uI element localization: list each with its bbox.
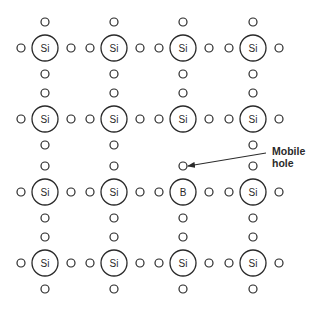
- silicon-atom: Si: [101, 35, 127, 61]
- valence-electron: [41, 285, 49, 293]
- valence-electron: [179, 233, 187, 241]
- arrow-icon: [188, 153, 266, 166]
- valence-electron: [41, 70, 49, 78]
- lattice-diagram: SiSiSiSiSiSiSiSiSiSiBSiSiSiSiSi Mobile h…: [0, 0, 314, 310]
- atom-symbol: Si: [110, 187, 119, 198]
- valence-electron: [179, 214, 187, 222]
- valence-electron: [86, 44, 94, 52]
- valence-electron: [67, 259, 75, 267]
- atom-symbol: Si: [41, 187, 50, 198]
- valence-electron: [249, 89, 257, 97]
- silicon-atom: Si: [101, 106, 127, 132]
- valence-electron: [155, 188, 163, 196]
- valence-electron: [136, 188, 144, 196]
- valence-electron: [179, 162, 187, 170]
- silicon-atom: Si: [240, 106, 266, 132]
- atom-symbol: B: [180, 187, 187, 198]
- silicon-atom: Si: [101, 250, 127, 276]
- valence-electron: [205, 115, 213, 123]
- valence-electron: [110, 18, 118, 26]
- valence-electron: [225, 44, 233, 52]
- valence-electron: [67, 188, 75, 196]
- valence-electron: [41, 162, 49, 170]
- valence-electron: [110, 162, 118, 170]
- valence-electron: [136, 44, 144, 52]
- silicon-atom: Si: [240, 179, 266, 205]
- silicon-atom: Si: [170, 35, 196, 61]
- valence-electron: [86, 188, 94, 196]
- valence-electron: [136, 115, 144, 123]
- mobile-hole-annotation: Mobile hole: [188, 145, 305, 169]
- valence-electron: [41, 141, 49, 149]
- atom-symbol: Si: [41, 43, 50, 54]
- atom-symbol: Si: [179, 258, 188, 269]
- valence-electron: [249, 233, 257, 241]
- atom-symbol: Si: [41, 258, 50, 269]
- atom-symbol: Si: [179, 114, 188, 125]
- valence-electron: [67, 115, 75, 123]
- silicon-atom: Si: [32, 106, 58, 132]
- valence-electron: [249, 18, 257, 26]
- boron-atom: B: [170, 179, 196, 205]
- valence-electron: [249, 141, 257, 149]
- atom-symbol: Si: [110, 114, 119, 125]
- silicon-atom: Si: [170, 106, 196, 132]
- valence-electron: [275, 44, 283, 52]
- valence-electron: [86, 115, 94, 123]
- valence-electron: [86, 259, 94, 267]
- silicon-atom: Si: [32, 179, 58, 205]
- atom-symbol: Si: [110, 43, 119, 54]
- valence-electron: [179, 18, 187, 26]
- valence-electron: [249, 214, 257, 222]
- valence-electron: [67, 44, 75, 52]
- atom-symbol: Si: [41, 114, 50, 125]
- valence-electron: [110, 233, 118, 241]
- valence-electron: [110, 141, 118, 149]
- valence-electron: [110, 89, 118, 97]
- valence-electron: [225, 259, 233, 267]
- valence-electron: [110, 285, 118, 293]
- valence-electron: [110, 214, 118, 222]
- valence-electron: [275, 188, 283, 196]
- valence-electron: [249, 162, 257, 170]
- atom-symbol: Si: [249, 187, 258, 198]
- valence-electron: [17, 115, 25, 123]
- silicon-atom: Si: [32, 35, 58, 61]
- valence-electron: [41, 214, 49, 222]
- valence-electron: [225, 188, 233, 196]
- valence-electron: [136, 259, 144, 267]
- valence-electron: [41, 18, 49, 26]
- silicon-atom: Si: [240, 250, 266, 276]
- valence-electron: [179, 89, 187, 97]
- atom-symbol: Si: [249, 114, 258, 125]
- valence-electron: [155, 44, 163, 52]
- valence-electron: [179, 70, 187, 78]
- valence-electron: [17, 188, 25, 196]
- valence-electron: [179, 285, 187, 293]
- valence-electron: [275, 259, 283, 267]
- annotation-label-line2: hole: [272, 157, 294, 169]
- valence-electron: [41, 89, 49, 97]
- valence-electron: [249, 70, 257, 78]
- electron-layer: [17, 18, 283, 293]
- atom-symbol: Si: [249, 258, 258, 269]
- valence-electron: [17, 44, 25, 52]
- atom-symbol: Si: [179, 43, 188, 54]
- silicon-atom: Si: [170, 250, 196, 276]
- atom-symbol: Si: [110, 258, 119, 269]
- valence-electron: [225, 115, 233, 123]
- silicon-atom: Si: [240, 35, 266, 61]
- valence-electron: [205, 44, 213, 52]
- valence-electron: [17, 259, 25, 267]
- silicon-atom: Si: [101, 179, 127, 205]
- annotation-label-line1: Mobile: [272, 145, 305, 157]
- valence-electron: [41, 233, 49, 241]
- valence-electron: [205, 259, 213, 267]
- valence-electron: [155, 115, 163, 123]
- valence-electron: [155, 259, 163, 267]
- valence-electron: [110, 70, 118, 78]
- valence-electron: [275, 115, 283, 123]
- valence-electron: [205, 188, 213, 196]
- silicon-atom: Si: [32, 250, 58, 276]
- atom-layer: SiSiSiSiSiSiSiSiSiSiBSiSiSiSiSi: [32, 35, 266, 276]
